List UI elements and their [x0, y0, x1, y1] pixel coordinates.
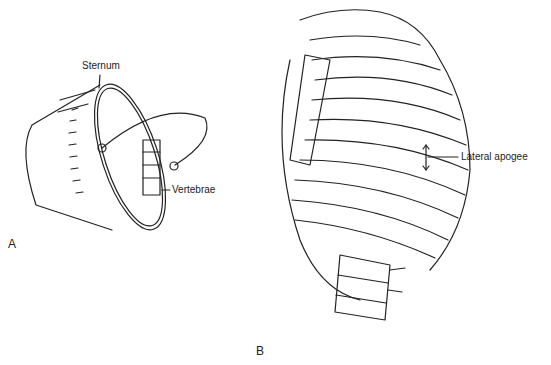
diagram-artwork: [0, 0, 551, 365]
label-lateral-apogee: Lateral apogee: [461, 151, 528, 162]
label-sternum: Sternum: [82, 60, 120, 71]
panel-letter-b: B: [256, 344, 264, 358]
label-vertebrae: Vertebrae: [172, 184, 215, 195]
rib-cage-illustration: [282, 10, 470, 320]
panel-letter-a: A: [8, 237, 16, 251]
bucket-illustration: [26, 75, 207, 238]
